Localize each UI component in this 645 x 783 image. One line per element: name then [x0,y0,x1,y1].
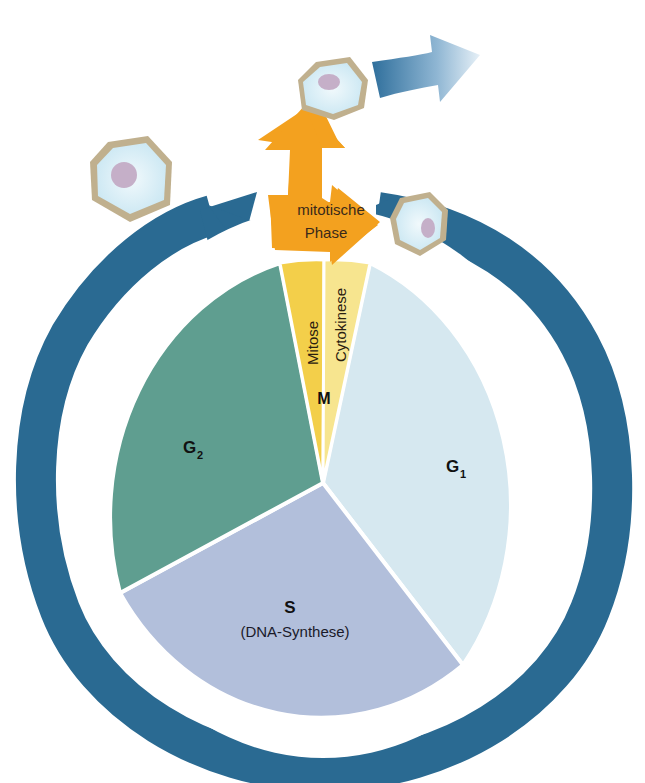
cytokinesis-label: Cytokinese [332,288,349,362]
cell-left [90,136,172,222]
m-label: M [317,390,330,407]
cell-top [298,57,368,120]
mitotic-phase-label-line1: mitotische [297,201,365,218]
mitotic-phase-label-line2: Phase [305,224,348,241]
s-label: S [284,598,295,617]
exit-arrow [372,35,480,102]
mitosis-label: Mitose [304,321,321,365]
cell-cycle-diagram: mitotische Phase Mitose Cytokinese M G 2… [0,0,645,783]
svg-text:1: 1 [460,468,466,480]
svg-text:2: 2 [197,449,203,461]
svg-text:G: G [446,457,459,476]
s-detail-label: (DNA-Synthese) [240,623,349,640]
svg-text:G: G [183,438,196,457]
interphase-label: Interphase [289,714,370,733]
